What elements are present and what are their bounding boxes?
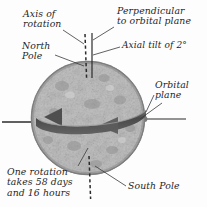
label-south-pole: South Pole — [128, 181, 180, 191]
label-perpendicular-to-orbital-plane: Perpendicular to orbital plane — [117, 6, 191, 27]
label-orbital-plane: Orbital plane — [155, 80, 189, 101]
label-rotation-period: One rotation takes 58 days and 16 hours — [7, 167, 73, 198]
label-north-pole: North Pole — [22, 41, 50, 62]
label-axis-of-rotation: Axis of rotation — [23, 9, 61, 30]
label-axial-tilt: Axial tilt of 2° — [122, 40, 187, 50]
diagram-canvas: Axis of rotation Perpendicular to orbita… — [0, 0, 207, 207]
